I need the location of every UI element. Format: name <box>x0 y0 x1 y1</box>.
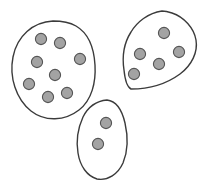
dot-left-cluster-7 <box>42 91 53 102</box>
dot-left-cluster-3 <box>31 56 42 67</box>
dot-top-right-cluster-5 <box>128 68 139 79</box>
dot-left-cluster-8 <box>61 87 72 98</box>
figure-canvas <box>0 0 211 189</box>
dot-left-cluster-5 <box>49 69 60 80</box>
dot-left-cluster-6 <box>23 78 34 89</box>
dot-bottom-center-cluster-2 <box>92 138 103 149</box>
cluster-diagram <box>0 0 211 189</box>
dot-top-right-cluster-1 <box>158 27 169 38</box>
dot-left-cluster-4 <box>74 53 85 64</box>
dot-left-cluster-2 <box>54 37 65 48</box>
dot-top-right-cluster-2 <box>134 48 145 59</box>
dot-bottom-center-cluster-1 <box>100 117 111 128</box>
dot-left-cluster-1 <box>35 33 46 44</box>
dot-top-right-cluster-4 <box>153 58 164 69</box>
dot-top-right-cluster-3 <box>173 46 184 57</box>
